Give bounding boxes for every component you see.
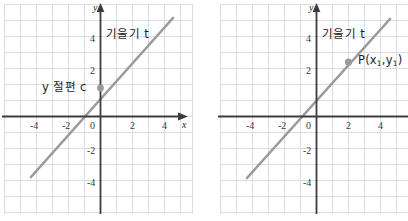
coordinate-plane-right: -4 -2 0 2 4 4 2 -2 -4 y 기울기 t P(x1,y1) [218, 0, 408, 221]
coordinate-plane-left: -4 -2 0 2 4 4 2 -2 -4 x y 기울기 t y 절편 c [0, 0, 196, 221]
graph-panel-right: -4 -2 0 2 4 4 2 -2 -4 y 기울기 t P(x1,y1) [218, 0, 408, 221]
graph-panel-left: -4 -2 0 2 4 4 2 -2 -4 x y 기울기 t y 절편 c [0, 0, 196, 221]
point-marker-intercept-left [0, 0, 196, 221]
point-marker-p-right [218, 0, 408, 221]
